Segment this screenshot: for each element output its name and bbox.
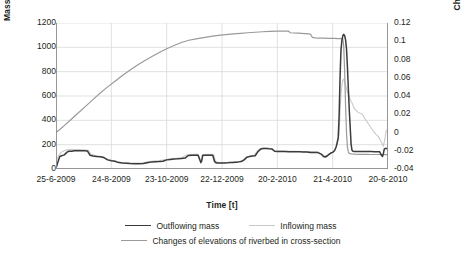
legend-item-changes-of-elevations: Changes of elevations of riverbed in cro… bbox=[121, 236, 340, 246]
y-tick-right: 0.02 bbox=[394, 108, 434, 118]
x-axis-title: Time [t] bbox=[56, 200, 388, 210]
legend-item-inflowing-mass: Inflowing mass bbox=[249, 221, 336, 231]
legend-label-outflowing-mass: Outflowing mass bbox=[156, 221, 219, 231]
legend-swatch-outflowing-mass bbox=[125, 225, 151, 226]
y-axis-right-title: Changes of elevations of riverbed [m] bbox=[452, 0, 462, 24]
y-tick-right: -0.04 bbox=[394, 163, 434, 173]
y-tick-left: 1200 bbox=[0, 17, 56, 27]
plot-svg bbox=[56, 23, 388, 169]
y-tick-right: -0.02 bbox=[394, 145, 434, 155]
legend-swatch-changes-of-elevations bbox=[121, 240, 147, 241]
legend-label-changes-of-elevations: Changes of elevations of riverbed in cro… bbox=[152, 236, 340, 246]
legend-swatch-inflowing-mass bbox=[249, 225, 275, 226]
y-tick-right: 0.04 bbox=[394, 90, 434, 100]
y-tick-left: 600 bbox=[0, 90, 56, 100]
y-tick-right: 0.08 bbox=[394, 54, 434, 64]
y-tick-left: 400 bbox=[0, 114, 56, 124]
y-tick-right: 0.1 bbox=[394, 35, 434, 45]
y-tick-left: 200 bbox=[0, 139, 56, 149]
y-tick-left: 0 bbox=[0, 163, 56, 173]
chart-legend: Outflowing mass Inflowing mass Changes o… bbox=[56, 218, 406, 248]
y-tick-left: 800 bbox=[0, 66, 56, 76]
plot-area bbox=[56, 23, 388, 169]
legend-item-outflowing-mass: Outflowing mass bbox=[125, 221, 219, 231]
gridlines bbox=[56, 23, 388, 169]
y-tick-right: 0 bbox=[394, 127, 434, 137]
y-tick-right: 0.12 bbox=[394, 17, 434, 27]
x-tick: 20-6-2010 bbox=[353, 174, 423, 184]
legend-label-inflowing-mass: Inflowing mass bbox=[280, 221, 336, 231]
legend-row-1: Outflowing mass Inflowing mass bbox=[56, 218, 406, 233]
y-tick-right: 0.06 bbox=[394, 72, 434, 82]
chart-figure: Mass of sediment [t] Changes of elevatio… bbox=[0, 0, 462, 258]
legend-row-2: Changes of elevations of riverbed in cro… bbox=[56, 233, 406, 248]
y-tick-left: 1000 bbox=[0, 41, 56, 51]
